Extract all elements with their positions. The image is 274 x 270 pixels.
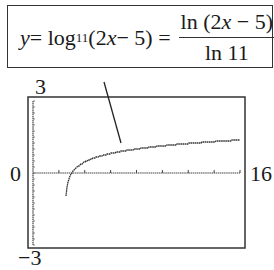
callout-leader-line (104, 82, 121, 143)
axes (33, 101, 240, 245)
function-curve (66, 140, 240, 196)
graph-plot (0, 0, 274, 270)
